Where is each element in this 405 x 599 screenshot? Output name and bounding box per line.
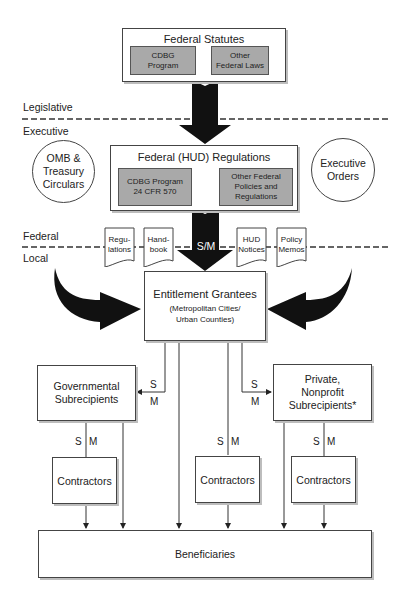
federal-statutes-title: Federal Statutes [123,33,285,45]
federal-label: Federal [23,230,59,242]
s-label-gov-contractors: S [75,436,82,447]
hud-regulations-box: Federal (HUD) Regulations CDBG Program 2… [110,145,298,211]
statutes-to-regulations-arrow [179,80,231,144]
entitlement-grantees-box: Entitlement Grantees (Metropolitan Citie… [144,271,266,341]
private-nonprofit-subrecipients-box: Private, Nonprofit Subrecipients* [273,364,372,421]
executive-label: Executive [23,125,69,137]
s-label-mid-contractors: S [217,436,224,447]
contractors-box-left: Contractors [52,457,117,504]
central-arrow-label: S/M [193,240,219,252]
entitlement-title: Entitlement Grantees [153,288,256,300]
document-regulations: Regu-lations [104,227,135,267]
document-handbook: Hand-book [143,227,174,267]
m-label-private-contractors: M [327,436,335,447]
s-label-private-contractors: S [313,436,320,447]
regulation-other-federal-policies: Other Federal Policies and Regulations [219,168,293,206]
governmental-subrecipients-box: Governmental Subrecipients [37,365,136,421]
federal-statutes-box: Federal Statutes CDBG Program Other Fede… [122,28,286,82]
m-label-governmental: M [150,396,158,407]
hud-regulations-title: Federal (HUD) Regulations [111,151,297,163]
beneficiaries-box: Beneficiaries [38,530,372,578]
contractors-box-right: Contractors [291,456,356,503]
document-hud-notices: HUDNotices [236,227,267,267]
statute-cdbg-program: CDBG Program [130,46,196,75]
m-label-gov-contractors: M [89,436,97,447]
m-label-private: M [251,396,259,407]
statute-other-federal-laws: Other Federal Laws [211,46,269,75]
executive-orders: Executive Orders [311,138,375,202]
right-curved-arrow [267,268,352,330]
s-label-governmental: S [150,379,157,390]
left-curved-arrow [54,268,141,330]
contractors-box-middle: Contractors [195,456,260,503]
document-policy-memos: PolicyMemos [276,227,307,267]
regulation-cdbg-program: CDBG Program 24 CFR 570 [118,168,192,206]
s-label-private: S [251,379,258,390]
m-label-mid-contractors: M [231,436,239,447]
omb-treasury-circulars: OMB & Treasury Circulars [32,140,95,203]
local-label: Local [23,252,48,264]
legislative-label: Legislative [23,101,73,113]
